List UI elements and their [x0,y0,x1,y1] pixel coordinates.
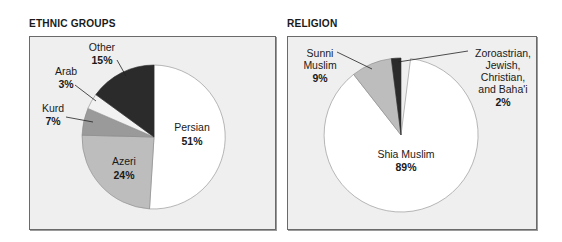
label-minor-line4: and Baha'i [478,83,527,95]
label-minor-pct: 2% [495,96,511,108]
leader-minor [398,51,468,62]
label-sunni-pct: 9% [312,72,328,84]
label-other-pct: 15% [91,54,113,66]
label-minor-line2: Jewish, [485,59,520,71]
label-kurd-name: Kurd [42,102,64,114]
leader-arab [75,85,96,101]
label-persian-pct: 51% [181,135,203,147]
religion-pie [324,51,478,212]
leader-sunni [337,52,372,69]
label-arab-pct: 3% [58,78,74,90]
label-sunni-line2: Muslim [303,59,337,71]
label-shia-name: Shia Muslim [377,148,434,160]
label-shia-pct: 89% [395,161,417,173]
pie-charts: Persian 51% Azeri 24% Kurd 7% Arab 3% Ot… [0,0,562,242]
label-other-name: Other [89,41,116,53]
label-azeri-name: Azeri [112,155,136,167]
label-azeri-pct: 24% [113,169,135,181]
label-persian-name: Persian [174,121,210,133]
label-sunni-line1: Sunni [307,47,334,59]
label-arab-name: Arab [55,65,77,77]
label-minor-line3: Christian, [481,71,525,83]
label-kurd-pct: 7% [45,115,61,127]
label-minor-line1: Zoroastrian, [475,47,531,59]
